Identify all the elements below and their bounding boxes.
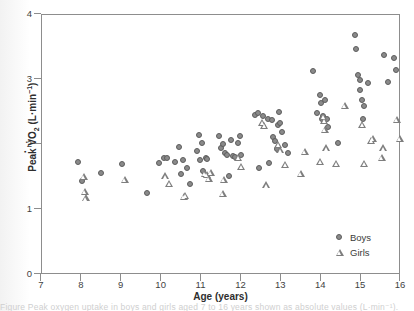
y-units-exponent: −1 (26, 86, 33, 94)
x-axis-tick-label: 16 (385, 279, 414, 290)
data-point-boys (352, 32, 358, 38)
data-point-boys (276, 109, 282, 115)
data-point-girls (321, 126, 329, 133)
data-point-girls (161, 172, 169, 179)
x-axis-tick-label: 10 (146, 279, 176, 290)
data-point-girls (341, 102, 349, 109)
y-axis-tick-label: 4 (8, 8, 32, 19)
data-point-girls (379, 144, 387, 151)
data-point-boys (353, 46, 359, 52)
data-point-girls (165, 180, 173, 187)
data-point-boys (277, 120, 283, 126)
data-point-boys (98, 170, 104, 176)
data-point-girls (234, 154, 242, 161)
data-point-boys (256, 165, 262, 171)
data-point-girls (297, 170, 305, 177)
data-point-boys (156, 160, 162, 166)
data-point-boys (178, 171, 184, 177)
x-axis-tick-label: 9 (106, 279, 136, 290)
y-units-mid: ·min (27, 94, 38, 115)
data-point-girls (393, 116, 401, 123)
v-dot-vo2: Peak V̇O (27, 131, 38, 172)
figure-caption-clipped: Figure Peak oxygen uptake in boys and gi… (0, 302, 414, 311)
x-axis-tick-label: 12 (225, 279, 255, 290)
legend-item-girls: Girls (336, 245, 371, 260)
data-point-boys (75, 159, 81, 165)
x-axis-title: Age (years) (41, 291, 400, 302)
x-axis-tick-label: 15 (345, 279, 375, 290)
data-point-boys (357, 87, 363, 93)
legend: Boys Girls (336, 230, 371, 260)
x-axis-tick-label: 11 (186, 279, 216, 290)
data-point-girls (281, 161, 289, 168)
data-point-girls (237, 163, 245, 170)
data-point-boys (310, 68, 316, 74)
data-point-boys (269, 117, 275, 123)
data-point-boys (393, 67, 399, 73)
data-point-boys (361, 103, 367, 109)
data-point-boys (220, 141, 226, 147)
data-point-boys (285, 150, 291, 156)
data-point-boys (237, 133, 243, 139)
data-point-girls (82, 194, 90, 201)
data-point-girls (181, 192, 189, 199)
y-axis-tick (34, 13, 41, 14)
data-point-girls (220, 176, 228, 183)
data-point-boys (187, 181, 193, 187)
x-axis-tick-label: 13 (265, 279, 295, 290)
data-point-boys (359, 97, 365, 103)
data-point-girls (396, 135, 404, 142)
data-point-boys (335, 140, 341, 146)
data-point-boys (279, 129, 285, 135)
data-point-boys (228, 137, 234, 143)
data-point-boys (391, 55, 397, 61)
x-axis-tick-label: 7 (26, 279, 56, 290)
y-axis-tick-label: 0 (8, 268, 32, 279)
data-point-girls (121, 176, 129, 183)
data-point-boys (266, 160, 272, 166)
data-point-girls (301, 148, 309, 155)
data-point-girls (369, 135, 377, 142)
data-point-boys (365, 80, 371, 86)
data-point-girls (262, 181, 270, 188)
data-point-boys (194, 148, 200, 154)
y-axis-title: Peak V̇O2 (L·min−1) (26, 42, 40, 212)
legend-marker-triangle-icon (336, 249, 344, 256)
y-axis-title-text: Peak V̇O2 (L·min−1) (27, 83, 38, 172)
legend-marker-circle-icon (336, 234, 342, 240)
y-units-close: ) (27, 83, 38, 86)
data-point-boys (216, 133, 222, 139)
data-point-girls (378, 154, 386, 161)
x-axis-tick-label: 14 (305, 279, 335, 290)
data-point-boys (119, 161, 125, 167)
data-point-boys (235, 140, 241, 146)
data-point-girls (358, 121, 366, 128)
data-point-boys (184, 165, 190, 171)
data-point-girls (219, 190, 227, 197)
figure-container: 43210 78910111213141516 Peak V̇O2 (L·min… (0, 0, 414, 311)
data-point-boys (164, 155, 170, 161)
data-point-girls (207, 169, 215, 176)
data-point-boys (381, 52, 387, 58)
data-point-boys (196, 132, 202, 138)
x-axis-tick-label: 8 (66, 279, 96, 290)
data-point-girls (276, 146, 284, 153)
y-units-open: (L (27, 115, 38, 127)
data-point-boys (385, 79, 391, 85)
data-point-boys (172, 159, 178, 165)
data-point-girls (332, 160, 340, 167)
data-point-boys (204, 156, 210, 162)
data-point-girls (360, 160, 368, 167)
data-point-boys (180, 157, 186, 163)
legend-item-boys: Boys (336, 230, 371, 245)
data-point-boys (322, 97, 328, 103)
data-point-boys (176, 144, 182, 150)
data-point-boys (144, 190, 150, 196)
data-point-girls (316, 158, 324, 165)
data-point-boys (357, 77, 363, 83)
data-point-girls (322, 144, 330, 151)
data-point-girls (80, 173, 88, 180)
data-point-boys (199, 140, 205, 146)
